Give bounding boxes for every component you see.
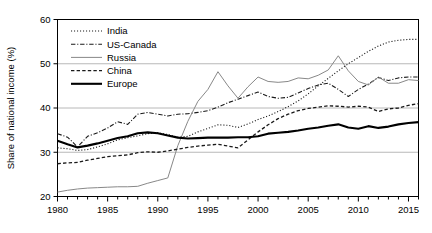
y-tick-label: 20 — [40, 191, 51, 202]
x-tick-label: 2010 — [348, 204, 369, 215]
x-tick-label: 2015 — [398, 204, 419, 215]
x-tick-label: 2000 — [247, 204, 268, 215]
x-axis-ticks: 19801985199019952000200520102015 — [47, 197, 419, 215]
chart-figure: 2030405060 19801985199019952000200520102… — [0, 0, 432, 233]
legend-label-china: China — [107, 65, 133, 76]
legend-label-russia: Russia — [107, 52, 137, 63]
y-axis-ticks: 2030405060 — [40, 14, 58, 202]
x-tick-label: 2005 — [298, 204, 319, 215]
y-tick-label: 60 — [40, 14, 51, 25]
line-chart: 2030405060 19801985199019952000200520102… — [0, 0, 432, 233]
x-tick-label: 1995 — [197, 204, 218, 215]
legend-label-india: India — [107, 25, 128, 36]
y-axis-title-text: Share of national income (%) — [5, 47, 16, 170]
x-tick-label: 1990 — [147, 204, 168, 215]
x-tick-label: 1980 — [47, 204, 68, 215]
y-tick-label: 40 — [40, 102, 51, 113]
legend-label-us-canada: US-Canada — [107, 39, 157, 50]
x-tick-label: 1985 — [97, 204, 118, 215]
y-tick-label: 30 — [40, 147, 51, 158]
y-tick-label: 50 — [40, 58, 51, 69]
legend-label-europe: Europe — [107, 78, 138, 89]
y-axis-label: Share of national income (%) — [5, 47, 16, 170]
